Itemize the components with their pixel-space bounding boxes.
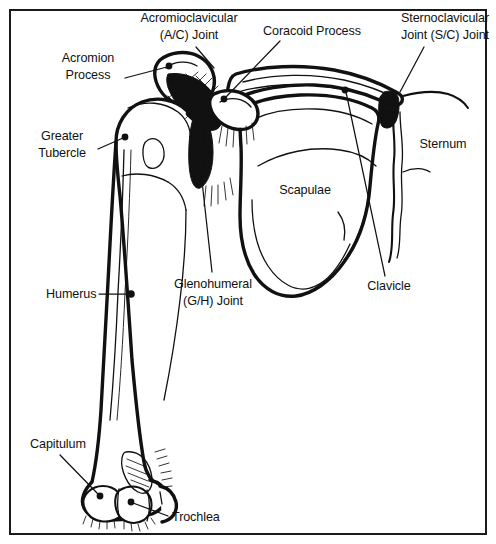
label-greater-tubercle-line1: Greater xyxy=(41,129,83,143)
label-sternoclavicular-joint-line1: Sternoclavicular xyxy=(401,11,489,25)
label-trochlea: Trochlea xyxy=(172,510,220,524)
label-acromion-process-line2: Process xyxy=(66,68,111,82)
label-sternoclavicular-joint-line2: Joint (S/C) Joint xyxy=(401,28,489,42)
humerus-bone xyxy=(92,99,191,486)
sternoclavicular-joint-detail xyxy=(379,91,399,128)
label-acromioclavicular-joint-line2: (A/C) Joint xyxy=(160,28,219,42)
label-glenohumeral-joint-line2: (G/H) Joint xyxy=(183,294,243,308)
leader-sternoclavicular-joint xyxy=(400,47,424,92)
label-capitulum: Capitulum xyxy=(30,437,86,451)
label-sternum: Sternum xyxy=(420,137,467,151)
label-greater-tubercle-line2: Tubercle xyxy=(38,146,86,160)
label-clavicle: Clavicle xyxy=(367,279,410,293)
dot-capitulum xyxy=(97,493,104,500)
label-coracoid-process: Coracoid Process xyxy=(263,24,361,38)
label-acromioclavicular-joint-line1: Acromioclavicular xyxy=(141,11,238,25)
leader-glenohumeral-joint xyxy=(201,172,212,272)
label-acromion-process-line1: Acromion xyxy=(62,51,114,65)
dot-clavicle xyxy=(342,87,349,94)
dot-trochlea xyxy=(128,499,135,506)
sternum-bone xyxy=(389,92,468,262)
shoulder-anatomy-drawing: Acromioclavicular (A/C) Joint Coracoid P… xyxy=(0,0,496,544)
dot-humerus xyxy=(127,290,135,298)
dot-greater-tubercle xyxy=(122,134,129,141)
label-glenohumeral-joint-line1: Glenohumeral xyxy=(174,277,252,291)
anatomy-figure: Acromioclavicular (A/C) Joint Coracoid P… xyxy=(0,0,496,544)
label-scapulae: Scapulae xyxy=(279,183,331,197)
dot-coracoid-process xyxy=(221,96,228,103)
dot-acromion-process xyxy=(166,63,173,70)
label-humerus: Humerus xyxy=(46,287,96,301)
